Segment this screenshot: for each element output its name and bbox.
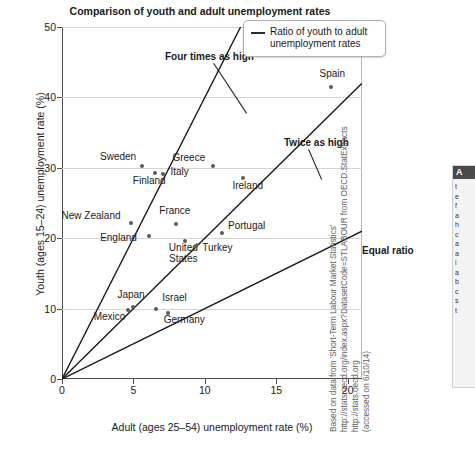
side-panel-line: b xyxy=(455,277,474,287)
side-panel-line: a xyxy=(455,249,474,259)
side-panel-header: A xyxy=(453,166,475,179)
data-point-label: Germany xyxy=(164,314,205,325)
data-point-label: Italy xyxy=(170,166,188,177)
data-point[interactable] xyxy=(194,244,198,248)
legend-line-swatch xyxy=(251,32,265,34)
data-point[interactable] xyxy=(140,164,144,168)
data-point-label: New Zealand xyxy=(62,210,121,221)
chart-title: Comparison of youth and adult unemployme… xyxy=(30,5,370,17)
data-point-label: Spain xyxy=(320,68,346,79)
data-point[interactable] xyxy=(161,172,165,176)
y-tick-label: 50 xyxy=(28,21,56,33)
source-line-2: http://stats.oecd.org/index.aspx?Dataset… xyxy=(339,102,361,432)
data-point-label: England xyxy=(100,232,137,243)
data-point-label: Japan xyxy=(117,289,144,300)
x-axis-title: Adult (ages 25–54) unemployment rate (%) xyxy=(62,421,362,433)
side-panel-line: a xyxy=(455,211,474,221)
x-tick-label: 0 xyxy=(47,384,77,396)
data-point-label: Israel xyxy=(162,292,186,303)
data-point[interactable] xyxy=(129,221,133,225)
side-panel-line: a xyxy=(455,268,474,278)
side-panel-body: tefahcaaiabcst xyxy=(453,179,475,318)
side-panel-line: i xyxy=(455,258,474,268)
data-point[interactable] xyxy=(154,307,158,311)
side-panel[interactable]: A tefahcaaiabcst xyxy=(452,165,475,388)
y-axis-title: Youth (ages 15–24) unemployment rate (%) xyxy=(34,44,46,344)
data-point[interactable] xyxy=(174,222,178,226)
data-point[interactable] xyxy=(131,305,135,309)
data-point-label: Mexico xyxy=(94,311,126,322)
source-line-1: Based on data from 'Short-Term Labour Ma… xyxy=(328,102,339,432)
data-point-label: Turkey xyxy=(202,242,232,253)
side-panel-line: t xyxy=(455,306,474,316)
data-point[interactable] xyxy=(211,164,215,168)
data-point[interactable] xyxy=(329,85,333,89)
data-point[interactable] xyxy=(220,231,224,235)
legend-label: Ratio of youth to adult unemployment rat… xyxy=(270,26,378,50)
ratio-line xyxy=(62,231,362,379)
side-panel-line: s xyxy=(455,296,474,306)
side-panel-line: c xyxy=(455,287,474,297)
ratio-reference-lines xyxy=(62,27,362,379)
data-point-label: Greece xyxy=(172,152,205,163)
data-point-label: Sweden xyxy=(100,151,136,162)
data-point-label: France xyxy=(159,205,190,216)
side-panel-line: t xyxy=(455,182,474,192)
x-tick-label: 5 xyxy=(118,384,148,396)
side-panel-line: f xyxy=(455,201,474,211)
data-point[interactable] xyxy=(126,308,130,312)
plot-region: 01020304050 05101520 MexicoJapanIsraelGe… xyxy=(62,27,362,379)
data-point[interactable] xyxy=(147,234,151,238)
data-point-label: Finland xyxy=(133,175,166,186)
x-tick-label: 10 xyxy=(190,384,220,396)
side-panel-line: h xyxy=(455,220,474,230)
figure-root: Comparison of youth and adult unemployme… xyxy=(0,0,475,449)
source-credit: Based on data from 'Short-Term Labour Ma… xyxy=(232,45,282,445)
source-line-3: (accessed on 6/10/14) xyxy=(361,102,372,432)
side-panel-line: c xyxy=(455,230,474,240)
ratio-line xyxy=(62,27,241,379)
side-panel-line: e xyxy=(455,192,474,202)
side-panel-line: a xyxy=(455,239,474,249)
